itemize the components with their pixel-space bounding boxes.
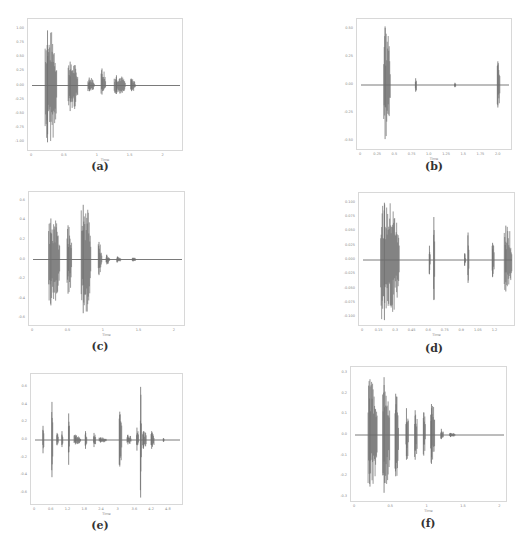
panel-caption: (d) [414,342,454,355]
y-tick-label: 0.25 [331,54,353,58]
waveform-svg-c [29,192,186,327]
x-tick-label: 2 [489,504,509,508]
panel-caption: (e) [80,519,120,532]
x-tick-label: 2 [164,328,184,332]
waveform-burst [151,431,154,449]
waveform-burst [101,68,106,94]
y-tick-label: 0.075 [333,214,355,218]
x-tick-label: 4.8 [158,507,178,511]
y-tick-label: 0.00 [2,83,24,87]
waveform-burst [131,79,136,91]
x-tick-label: 1 [87,153,107,157]
waveform-burst [441,429,444,439]
y-tick-label: 0.2 [325,391,347,395]
y-tick-label: 0.6 [3,198,25,202]
x-tick-label: 1.5 [120,153,140,157]
waveform-burst [99,437,106,442]
waveform-burst [119,412,122,467]
waveform-svg-b [357,19,513,151]
panel-caption: (c) [80,340,120,353]
waveform-burst [492,243,494,277]
x-tick-label: 1.2 [484,328,504,332]
waveform-burst [62,431,63,447]
x-axis-label: Time [92,333,122,337]
x-tick-label: 0 [22,328,42,332]
panel-caption: (a) [80,160,120,173]
waveform-svg-d [359,193,516,327]
waveform-burst [497,61,500,107]
y-tick-label: 0.3 [325,370,347,374]
x-axis-label: Time [422,333,452,337]
y-tick-label: -0.6 [3,315,25,319]
waveform-burst [67,225,72,293]
x-axis-label: Time [92,512,122,516]
plot-area-b [356,18,512,150]
y-tick-label: -0.2 [3,276,25,280]
y-tick-label: 0.025 [333,243,355,247]
y-tick-label: -0.050 [333,286,355,290]
waveform-burst [127,435,131,445]
plot-area-d [358,192,515,326]
y-tick-label: 0.050 [333,228,355,232]
waveform-burst [383,377,390,493]
y-tick-label: -0.75 [2,125,24,129]
waveform-burst [504,226,512,292]
waveform-burst [88,78,95,92]
y-tick-label: 0.50 [2,54,24,58]
y-tick-label: -0.100 [333,314,355,318]
y-tick-label: 0.0 [5,437,27,441]
waveform-burst [395,394,399,477]
waveform-burst [52,402,53,477]
waveform-burst [132,258,136,262]
y-tick-label: 0.6 [5,384,27,388]
plot-area-a [27,18,183,151]
x-tick-label: 0.5 [57,328,77,332]
waveform-burst [143,431,147,449]
plot-area-f [350,366,507,502]
x-tick-label: 2 [153,153,173,157]
x-tick-label: 0 [344,504,364,508]
waveform-burst [137,428,139,451]
y-tick-label: -0.4 [3,296,25,300]
waveform-burst [423,412,425,455]
y-tick-label: -0.25 [331,110,353,114]
waveform-burst [415,410,418,460]
y-tick-label: 0.25 [2,68,24,72]
waveform-burst [94,433,96,447]
y-tick-label: 0.0 [3,257,25,261]
plot-area-c [28,191,185,326]
y-tick-label: -1.00 [2,139,24,143]
panel-caption: (b) [414,160,454,173]
waveform-burst [98,242,102,275]
waveform-burst [381,203,400,320]
y-tick-label: -0.1 [325,453,347,457]
waveform-burst [57,433,59,445]
x-tick-label: 0.5 [54,153,74,157]
y-tick-label: -0.3 [325,494,347,498]
y-tick-label: 0.100 [333,200,355,204]
y-tick-label: 0.000 [333,257,355,261]
waveform-burst [106,255,110,265]
waveform-svg-a [28,19,184,152]
waveform-burst [429,246,430,275]
waveform-burst [74,435,81,445]
waveform-burst [43,426,44,453]
y-tick-label: 0.2 [5,419,27,423]
x-tick-label: 1 [417,504,437,508]
y-tick-label: 0.1 [325,411,347,415]
x-tick-label: 1 [93,328,113,332]
waveform-burst [85,431,87,449]
waveform-burst [114,75,125,94]
x-tick-label: 0.5 [380,504,400,508]
waveform-burst [384,26,391,139]
y-tick-label: -0.4 [5,472,27,476]
y-tick-label: 0.4 [3,217,25,221]
y-tick-label: -0.075 [333,300,355,304]
waveform-burst [434,217,435,300]
waveform-burst [163,438,164,442]
y-tick-label: -0.025 [333,271,355,275]
y-tick-label: 0.75 [2,40,24,44]
waveform-burst [368,379,377,486]
y-tick-label: -0.50 [331,138,353,142]
x-tick-label: 1.5 [453,504,473,508]
